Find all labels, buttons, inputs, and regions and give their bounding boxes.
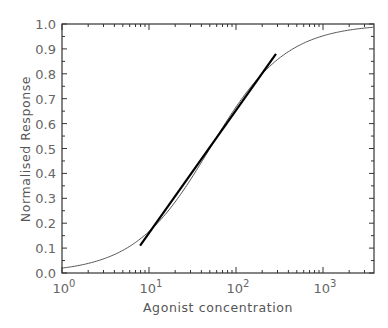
y-tick-label: 0.8 — [35, 67, 56, 82]
x-tick-label: 102 — [227, 278, 250, 296]
tangent-line — [140, 54, 276, 246]
plot-frame — [62, 24, 374, 273]
y-tick-label: 0.1 — [35, 241, 56, 256]
x-axis-title: Agonist concentration — [143, 300, 293, 315]
y-axis-ticks: 0.00.10.20.30.40.50.60.70.80.91.0 — [35, 17, 374, 281]
x-tick-label: 101 — [140, 278, 163, 296]
plot-border — [62, 24, 374, 273]
x-tick-label: 103 — [314, 278, 337, 296]
concentration-response-chart: 0.00.10.20.30.40.50.60.70.80.91.0 100101… — [0, 0, 388, 328]
y-tick-label: 0.9 — [35, 42, 56, 57]
y-tick-label: 0.3 — [35, 191, 56, 206]
y-tick-label: 1.0 — [35, 17, 56, 32]
response-curve — [62, 27, 374, 268]
x-tick-label: 100 — [53, 278, 76, 296]
y-tick-label: 0.2 — [35, 216, 56, 231]
y-axis-title: Normalised Response — [18, 76, 33, 222]
y-tick-label: 0.4 — [35, 166, 56, 181]
y-tick-label: 0.6 — [35, 117, 56, 132]
data-series — [62, 27, 374, 268]
y-tick-label: 0.5 — [35, 142, 56, 157]
x-axis-ticks: 100101102103 — [53, 24, 365, 296]
y-tick-label: 0.7 — [35, 92, 56, 107]
y-tick-label: 0.0 — [35, 266, 56, 281]
